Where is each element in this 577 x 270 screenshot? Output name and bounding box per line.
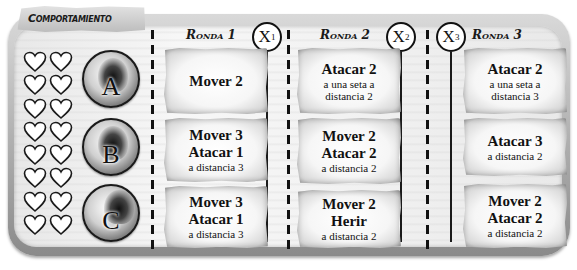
round-divider-2 — [287, 30, 290, 252]
heart-icon — [23, 50, 47, 74]
x2-circle-icon: X2 — [386, 22, 416, 52]
action-detail: distancia 3 — [491, 90, 538, 102]
action-line: Mover 2 — [189, 73, 242, 90]
round-2-title: Ronda 2 — [320, 28, 370, 42]
action-detail: a distancia 2 — [488, 227, 543, 239]
round-3-action-a: Atacar 2 a una seta a distancia 3 — [463, 48, 567, 114]
round-1-action-b: Mover 3 Atacar 1 a distancia 3 — [164, 118, 268, 182]
action-line: Mover 3 — [189, 194, 242, 211]
action-line: Mover 2 — [322, 128, 375, 145]
action-detail: a distancia 2 — [322, 230, 377, 242]
heart-icon — [23, 120, 47, 144]
action-line: Mover 2 — [322, 196, 375, 213]
x3-line — [450, 52, 452, 242]
heart-icon — [23, 213, 47, 237]
round-divider-3 — [426, 30, 429, 252]
action-line: Atacar 2 — [487, 210, 542, 227]
enemy-letter: C — [84, 206, 138, 236]
action-detail: a distancia 3 — [189, 161, 244, 173]
health-track — [23, 50, 75, 236]
x1-marker: X1 — [252, 22, 282, 52]
x-index: 3 — [455, 32, 460, 42]
heart-icon — [23, 143, 47, 167]
round-3-title: Ronda 3 — [472, 28, 522, 42]
x-index: 2 — [405, 32, 410, 42]
action-detail: a una seta a — [490, 78, 541, 90]
action-line: Atacar 3 — [487, 133, 542, 150]
enemy-portrait-c: C — [82, 184, 140, 242]
heart-icon — [49, 120, 73, 144]
heart-icon — [49, 166, 73, 190]
heart-icon — [49, 190, 73, 214]
heart-icon — [23, 190, 47, 214]
heart-icon — [23, 97, 47, 121]
action-detail: distancia 2 — [325, 90, 372, 102]
heart-icon — [49, 50, 73, 74]
round-2-action-a: Atacar 2 a una seta a distancia 2 — [297, 48, 401, 114]
round-3-action-c: Mover 2 Atacar 2 a distancia 2 — [463, 184, 567, 248]
card-title: Comportamiento — [28, 12, 111, 25]
round-1-title: Ronda 1 — [186, 28, 236, 42]
action-line: Atacar 1 — [188, 144, 243, 161]
action-detail: a una seta a — [324, 78, 375, 90]
round-2-action-c: Mover 2 Herir a distancia 2 — [297, 190, 401, 248]
action-detail: a distancia 2 — [322, 162, 377, 174]
heart-icon — [23, 166, 47, 190]
round-divider-1 — [151, 30, 154, 252]
action-detail: a distancia 3 — [189, 228, 244, 240]
x-index: 1 — [271, 32, 276, 42]
x3-circle-icon: X3 — [436, 22, 466, 52]
action-detail: a distancia 2 — [488, 150, 543, 162]
x3-marker: X3 — [436, 22, 466, 52]
action-line: Mover 2 — [488, 193, 541, 210]
action-line: Mover 3 — [189, 127, 242, 144]
action-line: Atacar 2 — [321, 61, 376, 78]
heart-icon — [49, 97, 73, 121]
action-line: Herir — [331, 213, 367, 230]
round-1-action-a: Mover 2 — [164, 48, 268, 114]
round-3-action-b: Atacar 3 a distancia 2 — [463, 118, 567, 176]
heart-icon — [49, 73, 73, 97]
enemy-letter: A — [84, 72, 138, 102]
x-label: X — [443, 27, 455, 47]
enemy-portrait-a: A — [82, 50, 140, 108]
heart-icon — [49, 213, 73, 237]
round-2-action-b: Mover 2 Atacar 2 a distancia 2 — [297, 118, 401, 184]
round-1-action-c: Mover 3 Atacar 1 a distancia 3 — [164, 186, 268, 248]
heart-icon — [49, 143, 73, 167]
x2-line — [400, 52, 402, 242]
heart-icon — [23, 73, 47, 97]
action-line: Atacar 1 — [188, 211, 243, 228]
x1-circle-icon: X1 — [252, 22, 282, 52]
enemy-letter: B — [84, 140, 138, 170]
action-line: Atacar 2 — [487, 61, 542, 78]
x-label: X — [393, 27, 405, 47]
enemy-portrait-b: B — [82, 118, 140, 176]
x2-marker: X2 — [386, 22, 416, 52]
x-label: X — [259, 27, 271, 47]
action-line: Atacar 2 — [321, 145, 376, 162]
